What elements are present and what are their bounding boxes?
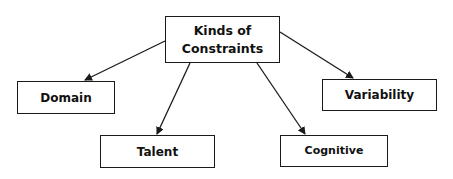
root-label-line2: Constraints [182,40,263,58]
node-variability: Variability [322,79,437,111]
edge-root-to-variability [280,32,353,78]
node-cognitive-label: Cognitive [305,142,364,160]
root-node-kinds-of-constraints: Kinds of Constraints [165,16,280,63]
node-talent: Talent [100,135,215,168]
node-talent-label: Talent [137,143,178,161]
node-cognitive: Cognitive [280,135,388,167]
edge-root-to-talent [157,63,190,134]
node-domain-label: Domain [40,89,91,107]
edge-root-to-cognitive [257,63,305,134]
node-variability-label: Variability [345,86,414,104]
node-domain: Domain [17,81,115,114]
edge-root-to-domain [85,41,165,80]
root-label-line1: Kinds of [182,22,263,40]
